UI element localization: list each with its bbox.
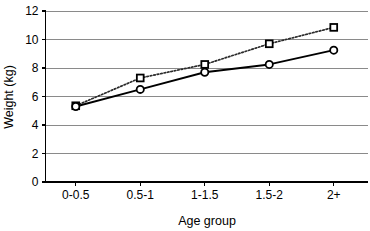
x-tick-label: 1-1.5 [191, 188, 219, 202]
series-line-solid-circle-series [76, 50, 334, 106]
data-point-marker [72, 103, 79, 110]
x-tick-label: 2+ [327, 188, 341, 202]
x-tick-label: 1.5-2 [256, 188, 284, 202]
data-point-marker [201, 61, 208, 68]
data-point-marker [330, 24, 337, 31]
x-tick-label-group: 0-0.50.5-11-1.51.5-22+ [62, 188, 341, 202]
y-tick-label: 2 [32, 147, 39, 161]
x-tick-label: 0-0.5 [62, 188, 90, 202]
x-tick-label: 0.5-1 [127, 188, 155, 202]
line-chart: 024681012 0-0.50.5-11-1.51.5-22+ Weight … [0, 0, 370, 231]
data-point-marker [201, 69, 208, 76]
y-tick-label: 4 [32, 118, 39, 132]
x-axis-title: Age group [178, 214, 236, 228]
data-point-marker [330, 47, 337, 54]
x-tick-mark-group [76, 182, 334, 186]
y-tick-label-group: 024681012 [25, 4, 39, 189]
y-tick-label: 0 [32, 175, 39, 189]
y-axis-title: Weight (kg) [2, 65, 16, 129]
chart-container: 024681012 0-0.50.5-11-1.51.5-22+ Weight … [0, 0, 370, 231]
data-point-marker [266, 61, 273, 68]
y-tick-label: 6 [32, 90, 39, 104]
y-tick-label: 10 [25, 33, 39, 47]
data-point-marker [137, 86, 144, 93]
y-tick-label: 8 [32, 61, 39, 75]
data-point-marker [137, 75, 144, 82]
data-point-marker [266, 40, 273, 47]
gridline-group [46, 11, 369, 154]
y-tick-label: 12 [25, 4, 39, 18]
